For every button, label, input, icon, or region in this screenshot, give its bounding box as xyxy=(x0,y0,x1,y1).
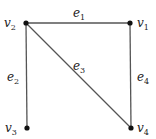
graph-diagram: e1e2e3e4v1v2v3v4 xyxy=(0,0,156,139)
vertex-v2 xyxy=(23,20,28,25)
edge-e4 xyxy=(130,23,131,128)
edge-label-e2: e2 xyxy=(7,70,19,86)
edge-label-e3: e3 xyxy=(73,59,85,75)
vertex-v4 xyxy=(128,125,133,130)
vertex-v3 xyxy=(24,125,29,130)
vertex-label-v4: v4 xyxy=(137,121,149,137)
vertex-v1 xyxy=(127,20,132,25)
edge-e2 xyxy=(26,23,27,128)
vertex-label-v3: v3 xyxy=(5,121,17,137)
edge-label-e4: e4 xyxy=(137,70,149,86)
graph-canvas: e1e2e3e4v1v2v3v4 xyxy=(0,0,156,139)
vertex-label-v1: v1 xyxy=(137,16,149,32)
edge-label-e1: e1 xyxy=(73,6,85,22)
vertex-label-v2: v2 xyxy=(4,16,16,32)
edge-e3 xyxy=(26,23,131,128)
